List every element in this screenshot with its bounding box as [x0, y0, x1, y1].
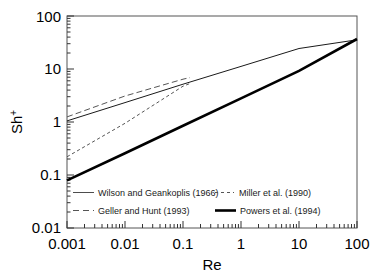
x-tick-label: 100 [344, 235, 369, 252]
x-tick-label: 0.001 [48, 235, 86, 252]
x-tick-label: 0.1 [173, 235, 194, 252]
chart-figure: 0.01 0.1 1 10 100 0.001 0.01 0.1 1 10 10… [0, 0, 373, 275]
x-tick-labels: 0.001 0.01 0.1 1 10 100 [48, 235, 369, 252]
y-tick-label: 0.01 [32, 219, 61, 236]
y-axis-title: Sh+ [8, 110, 25, 134]
x-axis-title: Re [202, 256, 221, 273]
y-tick-label: 100 [36, 8, 61, 25]
legend-label-powers: Powers et al. (1994) [240, 206, 321, 216]
legend-label-geller: Geller and Hunt (1993) [98, 206, 190, 216]
x-tick-label: 10 [291, 235, 308, 252]
x-tick-label: 0.01 [110, 235, 139, 252]
log-log-plot: 0.01 0.1 1 10 100 0.001 0.01 0.1 1 10 10… [0, 0, 373, 275]
y-tick-label: 0.1 [40, 166, 61, 183]
x-tick-label: 1 [237, 235, 245, 252]
y-tick-label: 10 [44, 60, 61, 77]
legend-label-miller: Miller et al. (1990) [239, 188, 311, 198]
legend-label-wilson: Wilson and Geankoplis (1966) [98, 188, 219, 198]
y-axis-title-base: Sh [8, 116, 25, 134]
y-tick-labels: 0.01 0.1 1 10 100 [32, 8, 61, 236]
y-axis-title-superscript: + [8, 110, 19, 116]
svg-text:Sh+: Sh+ [8, 110, 25, 134]
y-tick-label: 1 [53, 113, 61, 130]
